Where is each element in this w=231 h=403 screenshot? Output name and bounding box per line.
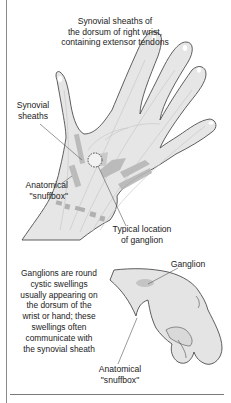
label-ganglion: Ganglion bbox=[168, 259, 208, 270]
label-anatomical-snuffbox-bottom: Anatomical "snuffbox" bbox=[96, 364, 144, 385]
hand-dorsal-illustration bbox=[22, 32, 216, 240]
hand-lateral-illustration bbox=[110, 268, 222, 364]
label-synovial-sheaths: Synovial sheaths bbox=[12, 100, 54, 121]
figure-title: Synovial sheaths of the dorsum of right … bbox=[40, 16, 190, 48]
label-typical-location: Typical location of ganglion bbox=[106, 224, 178, 245]
ganglion-location-marker bbox=[88, 153, 102, 167]
bottom-rule bbox=[10, 394, 224, 395]
ganglion-description: Ganglions are round cystic swellings usu… bbox=[14, 268, 104, 354]
label-anatomical-snuffbox-top: Anatomical "snuffbox" bbox=[10, 180, 68, 201]
ganglion-swelling bbox=[136, 279, 154, 287]
